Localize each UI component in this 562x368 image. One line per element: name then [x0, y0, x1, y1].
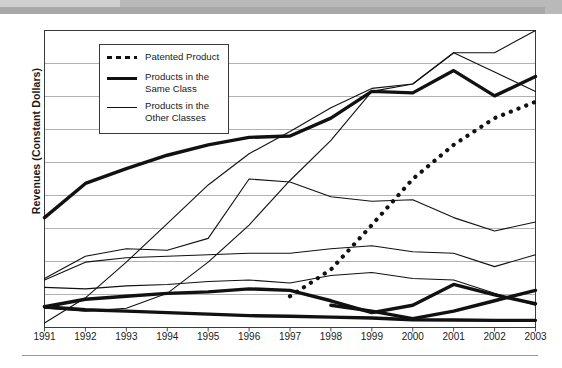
plot-canvas: [0, 0, 562, 368]
thin-line-icon: [106, 100, 138, 114]
x-axis-tick-label: 1998: [320, 331, 342, 342]
series-line: [290, 102, 536, 297]
dotted-line-icon: [106, 51, 138, 65]
x-axis-tick-label: 2000: [402, 331, 424, 342]
x-axis-tick-label: 1991: [33, 331, 55, 342]
legend-item-other-classes: Products in the Other Classes: [106, 100, 209, 123]
legend-label-other-classes: Products in the Other Classes: [145, 100, 209, 123]
thick-line-icon: [106, 71, 138, 85]
x-axis-tick-label: 1995: [197, 331, 219, 342]
x-axis-tick-label: 2001: [443, 331, 465, 342]
bottom-horizontal-rule: [22, 355, 538, 356]
legend-item-patented-product: Patented Product: [106, 51, 219, 65]
x-axis-tick-label: 2002: [483, 331, 505, 342]
x-axis-tick-label: 1994: [156, 331, 178, 342]
x-axis-tick-label: 1997: [279, 331, 301, 342]
legend-label-same-class: Products in the Same Class: [145, 71, 209, 94]
legend-label-patented-product: Patented Product: [145, 51, 219, 63]
x-axis-tick-label: 1996: [238, 331, 260, 342]
chart-legend: Patented Product Products in the Same Cl…: [99, 44, 229, 134]
x-axis-tick-label: 1992: [74, 331, 96, 342]
revenue-line-chart: Revenues (Constant Dollars) 199119921993…: [0, 0, 562, 368]
x-axis-tick-label: 2003: [524, 331, 546, 342]
legend-item-same-class: Products in the Same Class: [106, 71, 209, 94]
series-line: [45, 246, 536, 280]
x-axis-tick-label: 1993: [115, 331, 137, 342]
x-axis-tick-label: 1999: [361, 331, 383, 342]
